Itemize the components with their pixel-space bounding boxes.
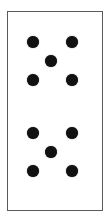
pip-top-right	[66, 127, 78, 139]
die-top	[7, 11, 103, 107]
pip-top-right	[66, 36, 78, 48]
die-bottom	[7, 106, 103, 211]
pip-bottom-left	[27, 74, 39, 86]
dice-stack	[0, 0, 106, 216]
pip-bottom-right	[66, 165, 78, 177]
pip-bottom-right	[66, 74, 78, 86]
pip-top-left	[27, 36, 39, 48]
pip-bottom-left	[27, 165, 39, 177]
pip-center	[45, 55, 57, 67]
pip-top-left	[27, 127, 39, 139]
pip-center	[45, 146, 57, 158]
